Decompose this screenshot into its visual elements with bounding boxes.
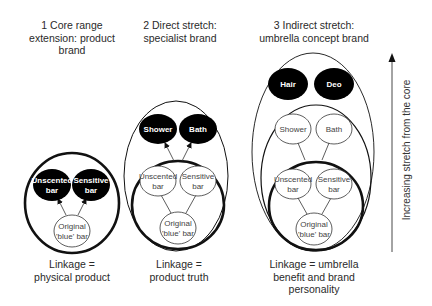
node-unscented-bar: Unscented bar — [139, 166, 177, 196]
node-original-blue-bar: Original 'blue' bar — [296, 213, 332, 245]
node-sensitive-bar: Sensitive bar — [72, 169, 110, 201]
link-line — [298, 143, 305, 160]
axis-label: Increasing stretch from the core — [401, 79, 412, 220]
link-arrow — [58, 199, 66, 215]
svg-text:Original: Original — [300, 220, 328, 229]
column-2-linkage: Linkage = product truth — [124, 258, 234, 283]
svg-text:Bath: Bath — [326, 125, 342, 134]
link-line — [322, 198, 331, 214]
link-line — [186, 195, 196, 213]
node-hair: Hair — [268, 68, 308, 100]
svg-text:Shower: Shower — [144, 125, 173, 134]
link-arrow — [182, 143, 191, 161]
node-deo: Deo — [314, 68, 354, 100]
svg-text:Shower: Shower — [279, 125, 306, 134]
linkage-line: product truth — [124, 271, 234, 284]
svg-text:Hair: Hair — [280, 80, 296, 89]
node-sensitive-bar: Sensitive bar — [316, 169, 352, 199]
svg-text:Bath: Bath — [189, 125, 207, 134]
node-original-blue-bar: Original 'blue' bar — [160, 212, 196, 244]
svg-text:Original: Original — [58, 222, 86, 231]
node-unscented-bar: Unscented bar — [274, 169, 312, 199]
linkage-line: Linkage = — [12, 258, 132, 271]
svg-text:Deo: Deo — [326, 80, 341, 89]
node-shower: Shower — [275, 114, 311, 144]
linkage-line: benefit and brand — [250, 271, 378, 284]
link-line — [298, 198, 307, 214]
svg-text:Original: Original — [164, 219, 192, 228]
indirect-stretch-diagram: Hair Deo Shower Bath Unscented bar Sensi… — [252, 53, 374, 251]
svg-text:'blue' bar: 'blue' bar — [56, 232, 88, 241]
link-line — [161, 195, 171, 213]
svg-text:bar: bar — [46, 186, 58, 195]
column-1-linkage: Linkage = physical product — [12, 258, 132, 283]
svg-text:Sensitive: Sensitive — [318, 175, 351, 184]
node-original-blue-bar: Original 'blue' bar — [54, 215, 90, 247]
svg-text:bar: bar — [152, 182, 164, 191]
svg-text:bar: bar — [85, 186, 97, 195]
link-arrow — [78, 199, 86, 215]
link-arrow — [165, 143, 174, 161]
node-sensitive-bar: Sensitive bar — [180, 166, 216, 196]
linkage-line: Linkage = umbrella — [250, 258, 378, 271]
arrow-up-icon — [389, 53, 396, 62]
svg-text:bar: bar — [328, 185, 340, 194]
core-range-extension-diagram: Unscented bar Sensitive bar Original 'bl… — [25, 153, 119, 253]
svg-text:'blue' bar: 'blue' bar — [162, 229, 194, 238]
node-bath: Bath — [316, 114, 352, 144]
svg-text:bar: bar — [192, 182, 204, 191]
svg-text:Sensitive: Sensitive — [182, 172, 215, 181]
svg-text:Unscented: Unscented — [32, 176, 73, 185]
column-3-linkage: Linkage = umbrella benefit and brand per… — [250, 258, 378, 296]
stretch-axis: Increasing stretch from the core — [389, 53, 413, 252]
svg-text:Unscented: Unscented — [274, 175, 312, 184]
linkage-line: Linkage = — [124, 258, 234, 271]
svg-text:Unscented: Unscented — [139, 172, 177, 181]
linkage-line: physical product — [12, 271, 132, 284]
svg-text:bar: bar — [287, 185, 299, 194]
node-shower: Shower — [139, 114, 177, 144]
link-line — [322, 143, 329, 160]
svg-text:'blue' bar: 'blue' bar — [298, 230, 330, 239]
linkage-line: personality — [250, 283, 378, 296]
svg-text:Sensitive: Sensitive — [73, 176, 109, 185]
node-bath: Bath — [179, 114, 217, 144]
node-unscented-bar: Unscented bar — [32, 169, 73, 201]
direct-stretch-diagram: Shower Bath Unscented bar Sensitive bar … — [124, 101, 228, 251]
